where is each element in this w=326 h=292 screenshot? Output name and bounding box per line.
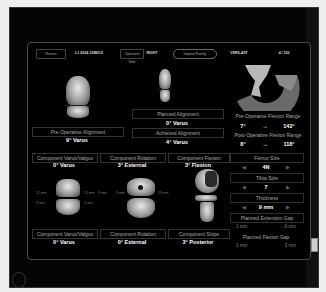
flexion-gap-label: Planned Flexion Gap bbox=[230, 233, 302, 241]
tibial-rotation-label: Component Rotation bbox=[100, 229, 166, 239]
preop-tibia-model bbox=[67, 106, 89, 118]
postop-flexion-max: 118° bbox=[282, 141, 296, 147]
preop-alignment-label: Pre-Operative Alignment bbox=[32, 127, 124, 137]
femur-size-increment-icon[interactable]: ▶ bbox=[286, 163, 290, 172]
operative-side-label[interactable]: Operative Side bbox=[120, 49, 144, 59]
flexion-range-arc bbox=[231, 61, 303, 111]
achieved-alignment-value: 4° Varus bbox=[132, 139, 222, 145]
tibial-slope-label: Component Slope bbox=[168, 229, 230, 239]
preop-alignment-value: 9° Varus bbox=[32, 137, 122, 143]
lateral-distal-measure: 10 mm bbox=[84, 191, 95, 195]
planned-tibia-model bbox=[160, 90, 170, 102]
preop-flexion-arrow: → bbox=[260, 123, 270, 129]
case-counter: 4 / 100 bbox=[274, 49, 294, 57]
thickness-stepper[interactable]: ◀ 9 mm ▶ bbox=[230, 203, 302, 212]
femur-size-stepper[interactable]: ◀ 4N ▶ bbox=[230, 163, 302, 172]
medial-distal-measure: 11 mm bbox=[36, 191, 46, 195]
coronal-tibia-implant bbox=[56, 199, 80, 215]
rotation-right-measure: 11 mm bbox=[158, 191, 168, 195]
case-id: L1-0024-1098012 bbox=[70, 49, 108, 57]
thickness-value: 9 mm bbox=[230, 203, 302, 212]
sagittal-tibia-implant bbox=[200, 202, 214, 222]
tibia-size-label: Tibia Size bbox=[230, 173, 304, 183]
planned-alignment-label: Planned Alignment bbox=[132, 109, 224, 119]
circle-icon bbox=[12, 272, 26, 288]
rotation-left-measure: 9 mm bbox=[116, 191, 125, 195]
axial-tibia-implant bbox=[127, 198, 155, 218]
preop-femur-model bbox=[66, 76, 90, 106]
preop-flexion-label: Pre-Operative Flexion Range bbox=[228, 113, 308, 119]
tibial-slope-value[interactable]: 3° Posterior bbox=[168, 239, 228, 245]
far-measure: 9 mm bbox=[98, 191, 107, 195]
lateral-tibial-measure: 2 mm bbox=[84, 201, 93, 205]
planned-alignment-value: 0° Varus bbox=[132, 120, 222, 126]
postop-flexion-min: 8° bbox=[238, 141, 248, 147]
scrollbar-thumb[interactable] bbox=[311, 238, 318, 252]
femur-size-value: 4N bbox=[230, 163, 302, 172]
tibia-size-increment-icon[interactable]: ▶ bbox=[286, 183, 290, 192]
recent-button[interactable]: Recent bbox=[36, 49, 66, 59]
implant-family-value: VERILAST bbox=[228, 49, 250, 57]
tibial-rotation-value[interactable]: 0° External bbox=[100, 239, 164, 245]
postop-flexion-label: Post-Operative Flexion Range bbox=[228, 132, 308, 138]
operative-side-value: RIGHT bbox=[145, 49, 159, 57]
thickness-label: Thickness bbox=[230, 193, 304, 203]
case-info-bar: Recent L1-0024-1098012 Operative Side RI… bbox=[34, 49, 304, 59]
medial-tibial-measure: 3 mm bbox=[36, 201, 45, 205]
femur-size-label: Femur Size bbox=[230, 153, 304, 163]
extension-gap-lateral: -0 mm bbox=[283, 224, 296, 229]
sagittal-insert bbox=[195, 195, 217, 201]
flexion-gap-lateral: 3 mm bbox=[285, 243, 296, 248]
postop-flexion-arrow: → bbox=[260, 141, 270, 147]
femoral-varus-valgus-value[interactable]: 0° Varus bbox=[32, 162, 96, 168]
axial-notch bbox=[138, 185, 143, 190]
tibial-varus-valgus-value[interactable]: 0° Varus bbox=[32, 239, 96, 245]
tibia-size-value: 7 bbox=[230, 183, 302, 192]
tibial-varus-valgus-label: Component Varus/Valgus bbox=[32, 229, 98, 239]
app-screen: Recent L1-0024-1098012 Operative Side RI… bbox=[9, 7, 319, 288]
coronal-femur-implant bbox=[56, 179, 80, 197]
tibia-size-stepper[interactable]: ◀ 7 ▶ bbox=[230, 183, 302, 192]
planned-femur-model bbox=[159, 69, 171, 89]
surgical-plan-panel: Recent L1-0024-1098012 Operative Side RI… bbox=[27, 42, 311, 260]
achieved-alignment-label: Achieved Alignment bbox=[132, 128, 224, 138]
extension-gap-label: Planned Extension Gap bbox=[230, 213, 304, 223]
extension-gap-medial: 1 mm bbox=[236, 224, 247, 229]
preop-flexion-max: 142° bbox=[282, 123, 296, 129]
flexion-gap-medial: 1 mm bbox=[236, 243, 247, 248]
preop-flexion-min: 7° bbox=[238, 123, 248, 129]
femoral-rotation-value[interactable]: 3° External bbox=[100, 162, 164, 168]
thickness-increment-icon[interactable]: ▶ bbox=[286, 203, 290, 212]
sagittal-femur-cavity bbox=[205, 171, 217, 187]
femoral-flexion-value[interactable]: 3° Flexion bbox=[168, 162, 228, 168]
implant-family-button[interactable]: Implant Family bbox=[173, 49, 217, 59]
